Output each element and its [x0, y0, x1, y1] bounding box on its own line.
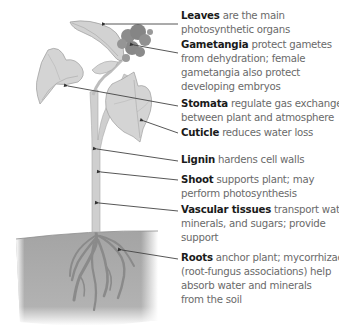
term-stomata: Stomata — [181, 98, 228, 109]
label-vascular-tissues: Vascular tissues transport water, minera… — [181, 203, 339, 245]
term-cuticle: Cuticle — [181, 127, 219, 138]
top-leaf — [70, 21, 124, 61]
label-roots: Roots anchor plant; mycorrhizae (root-fu… — [181, 251, 339, 307]
term-roots: Roots — [181, 252, 213, 263]
label-shoot: Shoot supports plant; may perform photos… — [181, 173, 339, 201]
leader-shoot — [101, 172, 178, 180]
soil — [16, 231, 158, 326]
label-stomata: Stomata regulate gas exchange between pl… — [181, 97, 339, 125]
label-gametangia: Gametangia protect gametes from dehydrat… — [181, 38, 339, 94]
term-shoot: Shoot — [181, 174, 213, 185]
left-leaf — [36, 48, 83, 104]
leader-lignin — [97, 149, 178, 161]
term-vascular-tissues: Vascular tissues — [181, 204, 271, 215]
small-leaf — [92, 61, 118, 74]
term-gametangia: Gametangia — [181, 39, 248, 50]
term-lignin: Lignin — [181, 154, 215, 165]
heart-leaf — [106, 72, 152, 142]
term-leaves: Leaves — [181, 10, 220, 21]
leader-vascular — [99, 203, 178, 211]
leader-cuticle — [144, 121, 178, 133]
label-cuticle: Cuticle reduces water loss — [181, 126, 339, 140]
gametangia-cluster — [117, 24, 153, 62]
label-lignin: Lignin hardens cell walls — [181, 153, 339, 167]
label-leaves: Leaves are the main photosynthetic organ… — [181, 9, 339, 37]
